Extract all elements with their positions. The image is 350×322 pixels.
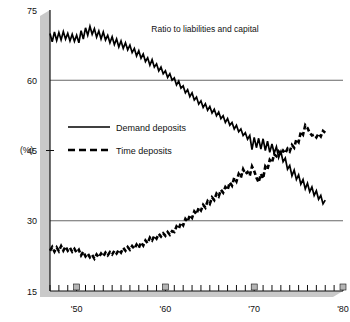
x-tick-label-80: '80 bbox=[337, 304, 349, 314]
y-tick-label-60: 60 bbox=[27, 76, 37, 86]
legend-label-demand-deposits: Demand deposits bbox=[116, 123, 187, 133]
legend-label-time-deposits: Time deposits bbox=[116, 146, 172, 156]
x-tick-label-60: '60 bbox=[160, 304, 172, 314]
chart-container: 1530456075 '50'60'70'80 (%) Ratio to lia… bbox=[0, 0, 350, 322]
y-tick-label-15: 15 bbox=[27, 287, 37, 297]
y-tick-label-75: 75 bbox=[27, 6, 37, 16]
chart-title: Ratio to liabilities and capital bbox=[151, 24, 258, 34]
x-tick-label-50: '50 bbox=[71, 304, 83, 314]
x-tick-label-70: '70 bbox=[248, 304, 260, 314]
y-axis-unit-label: (%) bbox=[20, 145, 33, 155]
x-decade-marker-1960 bbox=[162, 284, 168, 290]
x-decade-marker-1950 bbox=[74, 284, 80, 290]
x-decade-marker-1980 bbox=[340, 284, 346, 290]
x-axis-tick-labels: '50'60'70'80 bbox=[71, 304, 349, 314]
deposit-ratio-line-chart: 1530456075 '50'60'70'80 (%) Ratio to lia… bbox=[0, 0, 350, 322]
x-decade-marker-1970 bbox=[251, 284, 257, 290]
y-tick-label-30: 30 bbox=[27, 216, 37, 226]
